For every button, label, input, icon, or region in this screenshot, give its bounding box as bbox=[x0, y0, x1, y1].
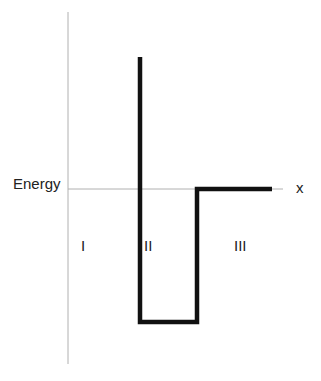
region-label-3: III bbox=[234, 238, 247, 253]
energy-axis-label: Energy bbox=[13, 176, 61, 191]
x-axis-label: x bbox=[296, 180, 304, 195]
region-label-1: I bbox=[81, 238, 85, 253]
region-label-2: II bbox=[144, 238, 152, 253]
